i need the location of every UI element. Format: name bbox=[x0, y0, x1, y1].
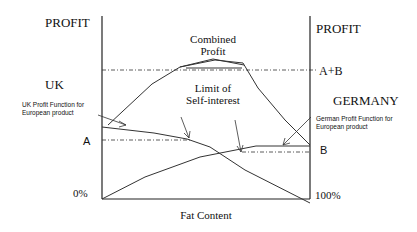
limit-label-1: Limit of bbox=[195, 82, 232, 94]
level-a-label: A bbox=[83, 135, 91, 147]
limit-arrow-right bbox=[235, 120, 243, 152]
profit-diagram: PROFIT PROFIT UK GERMANY Combined Profit… bbox=[0, 0, 417, 232]
level-b-label: B bbox=[320, 144, 327, 156]
uk-label: UK bbox=[45, 77, 64, 92]
limit-arrow-left bbox=[181, 117, 190, 138]
germany-label: GERMANY bbox=[333, 93, 399, 108]
x-axis-title: Fat Content bbox=[180, 209, 232, 221]
x-min-label: 0% bbox=[73, 187, 88, 199]
uk-profit-curve bbox=[102, 127, 310, 203]
german-function-label-1: German Profit Function for bbox=[316, 115, 393, 122]
limit-label-2: Self-interest bbox=[186, 94, 240, 106]
level-ab-label: A+B bbox=[319, 64, 342, 78]
uk-function-label-1: UK Profit Function for bbox=[22, 101, 85, 108]
x-max-label: 100% bbox=[315, 189, 341, 201]
left-axis-title: PROFIT bbox=[45, 15, 90, 30]
combined-profit-label-2: Profit bbox=[200, 45, 225, 57]
right-axis-title: PROFIT bbox=[316, 21, 361, 36]
german-function-label-2: European product bbox=[316, 123, 368, 131]
german-function-arrow bbox=[283, 117, 311, 145]
uk-function-label-2: European product bbox=[22, 109, 74, 117]
combined-profit-label-1: Combined bbox=[190, 33, 236, 45]
german-profit-curve bbox=[102, 146, 310, 199]
